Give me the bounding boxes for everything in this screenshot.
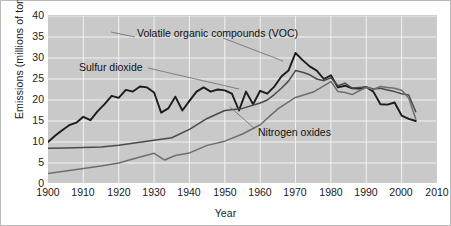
emissions-line-chart-figure: Emissions (millions of tons) 40 35 30 25… [0, 0, 451, 226]
annotation-voc: Volatile organic compounds (VOC) [137, 28, 298, 39]
annotation-nitrogen-oxides: Nitrogen oxides [258, 127, 331, 138]
annotation-sulfur-dioxide: Sulfur dioxide [79, 62, 143, 73]
